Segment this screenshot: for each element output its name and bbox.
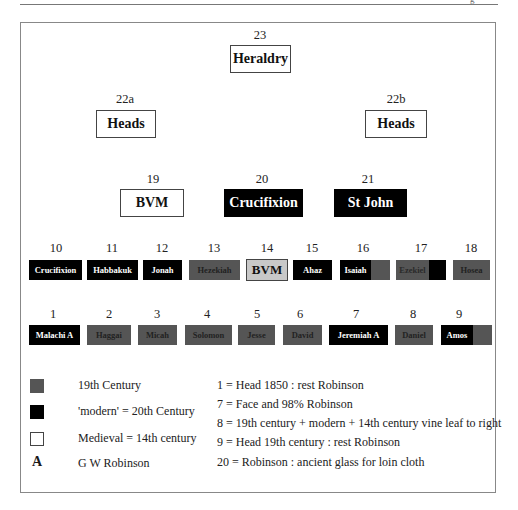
panel-number-17: 17 [401, 241, 441, 256]
panel-number-5: 5 [237, 307, 277, 322]
panel-number-15: 15 [292, 241, 332, 256]
panel-isaiah-16: Isaiah [340, 260, 390, 280]
panel-number-4: 4 [187, 307, 227, 322]
panel-number-22a: 22a [105, 92, 145, 107]
panel-ezekiel-modern-part [429, 260, 446, 280]
panel-crucifixion-10: Crucifixion [29, 260, 82, 280]
panel-jeremiah-7: Jeremiah A [329, 325, 388, 345]
legend-label-robinson: G W Robinson [78, 456, 150, 471]
panel-number-2: 2 [89, 307, 129, 322]
panel-number-20: 20 [242, 172, 282, 187]
panel-david-6: David [283, 325, 322, 345]
panel-st-john-21: St John [334, 189, 407, 217]
panel-number-9: 9 [439, 307, 479, 322]
panel-number-23: 23 [240, 28, 280, 43]
panel-number-1: 1 [33, 307, 73, 322]
panel-jonah-12: Jonah [143, 260, 182, 280]
panel-isaiah-modern-part: Isaiah [340, 260, 371, 280]
panel-number-12: 12 [142, 241, 182, 256]
panel-malachi-1: Malachi A [29, 325, 80, 345]
panel-number-13: 13 [194, 241, 234, 256]
panel-ezekiel-17: Ezekiel [396, 260, 446, 280]
note-panel-1: 1 = Head 1850 : rest Robinson [217, 378, 364, 393]
legend-symbol-robinson: A [32, 454, 42, 470]
panel-number-3: 3 [137, 307, 177, 322]
panel-amos-19th-part [473, 325, 492, 345]
legend-label-modern: 'modern' = 20th Century [78, 404, 195, 419]
panel-number-8: 8 [393, 307, 433, 322]
panel-bvm-19: BVM [120, 189, 184, 217]
panel-number-6: 6 [280, 307, 320, 322]
legend-swatch-medieval [30, 432, 44, 446]
legend-swatch-19th-century [30, 379, 44, 393]
panel-solomon-4: Solomon [185, 325, 232, 345]
panel-bvm-14: BVM [246, 259, 288, 281]
panel-number-10: 10 [36, 241, 76, 256]
panel-ezekiel-19th-part: Ezekiel [396, 260, 429, 280]
legend-label-19th-century: 19th Century [78, 378, 141, 393]
panel-micah-3: Micah [138, 325, 177, 345]
legend-label-medieval: Medieval = 14th century [78, 431, 196, 446]
note-panel-9: 9 = Head 19th century : rest Robinson [217, 435, 400, 450]
panel-haggai-2: Haggai [87, 325, 131, 345]
panel-number-18: 18 [451, 241, 491, 256]
panel-heads-22b: Heads [365, 110, 427, 138]
panel-number-16: 16 [343, 241, 383, 256]
panel-crucifixion-20: Crucifixion [224, 189, 303, 217]
panel-number-11: 11 [92, 241, 132, 256]
panel-habbakuk-11: Habbakuk [87, 260, 138, 280]
panel-hosea-18: Hosea [453, 260, 490, 280]
panel-number-19: 19 [133, 172, 173, 187]
panel-number-7: 7 [336, 307, 376, 322]
note-panel-7: 7 = Face and 98% Robinson [217, 397, 353, 412]
panel-ahaz-15: Ahaz [293, 260, 332, 280]
page-top-rule [20, 4, 498, 5]
panel-number-22b: 22b [376, 92, 416, 107]
panel-amos-modern-part: Amos [441, 325, 473, 345]
panel-amos-9: Amos [441, 325, 492, 345]
panel-jesse-5: Jesse [238, 325, 275, 345]
panel-isaiah-19th-part [371, 260, 390, 280]
page-corner-fragment: g [470, 0, 475, 4]
panel-heads-22a: Heads [96, 110, 156, 138]
note-panel-8: 8 = 19th century + modern + 14th century… [217, 416, 501, 431]
panel-daniel-8: Daniel [395, 325, 433, 345]
panel-heraldry: Heraldry [230, 45, 291, 73]
panel-number-14: 14 [247, 241, 287, 256]
note-panel-20: 20 = Robinson : ancient glass for loin c… [217, 455, 424, 470]
panel-number-21: 21 [348, 172, 388, 187]
legend-swatch-modern [30, 405, 44, 419]
panel-hezekiah-13: Hezekiah [189, 260, 240, 280]
